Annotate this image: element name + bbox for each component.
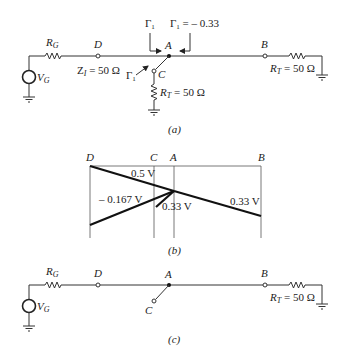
node-d-label: D bbox=[93, 267, 102, 279]
ground-icon bbox=[316, 75, 328, 80]
col-c-label: C bbox=[150, 151, 158, 163]
node-d bbox=[96, 54, 100, 58]
gamma-right-arrow-icon bbox=[180, 33, 190, 51]
transmitted-voltage-label: 0.33 V bbox=[230, 195, 260, 207]
caption-b: (b) bbox=[168, 244, 181, 257]
incident-voltage-label: 0.5 V bbox=[131, 167, 155, 179]
node-c-label: C bbox=[158, 68, 166, 80]
node-c bbox=[152, 69, 156, 73]
gamma-stub-arrow-icon bbox=[136, 66, 148, 75]
ground-icon bbox=[316, 304, 328, 309]
voltage-source-icon bbox=[23, 56, 36, 97]
resistor-rt-end-icon bbox=[289, 53, 305, 59]
voltage-source-icon bbox=[23, 285, 36, 326]
node-d bbox=[96, 283, 100, 287]
node-b-label: B bbox=[261, 267, 268, 279]
node-a-label: A bbox=[164, 268, 172, 280]
caption-c: (c) bbox=[168, 333, 181, 346]
col-a-label: A bbox=[169, 151, 177, 163]
rg-label: RG bbox=[45, 265, 59, 279]
vg-label: VG bbox=[37, 300, 50, 314]
node-c bbox=[152, 299, 156, 303]
gamma-left-label: Γ1 bbox=[145, 17, 155, 31]
rt-end-label: RT = 50 Ω bbox=[269, 62, 315, 76]
reflected-voltage-label: – 0.167 V bbox=[98, 193, 143, 205]
stub-voltage-label: 0.33 V bbox=[162, 200, 192, 212]
rt-end-label: RT = 50 Ω bbox=[269, 291, 315, 305]
figure-b: D C A B 0.5 V – 0.167 V 0.33 V 0.33 V (b… bbox=[85, 151, 265, 257]
node-b bbox=[263, 283, 267, 287]
figure-a: VG RG D ZI = 50 Ω A Γ1 Γ1 = – 0.33 C Γ1 bbox=[23, 17, 329, 136]
ground-icon bbox=[23, 326, 35, 331]
rt-stub-label: RT = 50 Ω bbox=[159, 86, 205, 100]
resistor-rg-icon bbox=[45, 282, 61, 288]
diagram-canvas: VG RG D ZI = 50 Ω A Γ1 Γ1 = – 0.33 C Γ1 bbox=[0, 0, 346, 359]
gamma-stub-label: Γ1 bbox=[126, 69, 136, 83]
resistor-rt-stub-icon bbox=[151, 84, 157, 100]
node-c-label: C bbox=[145, 304, 153, 316]
node-b bbox=[263, 54, 267, 58]
gamma-left-arrow-icon bbox=[150, 33, 161, 51]
node-d-label: D bbox=[93, 38, 102, 50]
resistor-rg-icon bbox=[45, 53, 61, 59]
zi-label: ZI = 50 Ω bbox=[77, 64, 120, 78]
figure-c: VG RG D A C B RT = 50 Ω (c) bbox=[23, 265, 329, 346]
node-a-label: A bbox=[164, 39, 172, 51]
node-b-label: B bbox=[261, 38, 268, 50]
ground-icon bbox=[23, 97, 35, 102]
vg-label: VG bbox=[37, 71, 50, 85]
caption-a: (a) bbox=[168, 123, 181, 136]
gamma-right-label: Γ1 = – 0.33 bbox=[170, 17, 220, 31]
rg-label: RG bbox=[45, 36, 59, 50]
ground-icon bbox=[148, 110, 160, 115]
col-d-label: D bbox=[85, 151, 94, 163]
resistor-rt-end-icon bbox=[289, 282, 305, 288]
col-b-label: B bbox=[258, 151, 265, 163]
